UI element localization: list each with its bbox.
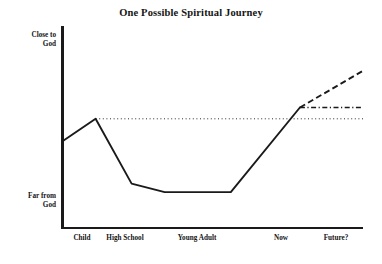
series-past-journey	[63, 108, 300, 193]
x-axis-tick-label: Now	[274, 234, 288, 242]
x-axis-tick-label: Child	[73, 234, 90, 242]
chart-container: One Possible Spiritual Journey Close to …	[0, 0, 382, 264]
x-axis-tick-label: Young Adult	[178, 234, 217, 242]
x-axis-tick-label: Future?	[324, 234, 349, 242]
plot-area	[0, 0, 382, 264]
series-future-growth	[300, 71, 363, 108]
x-axis-tick-label: High School	[106, 234, 143, 242]
